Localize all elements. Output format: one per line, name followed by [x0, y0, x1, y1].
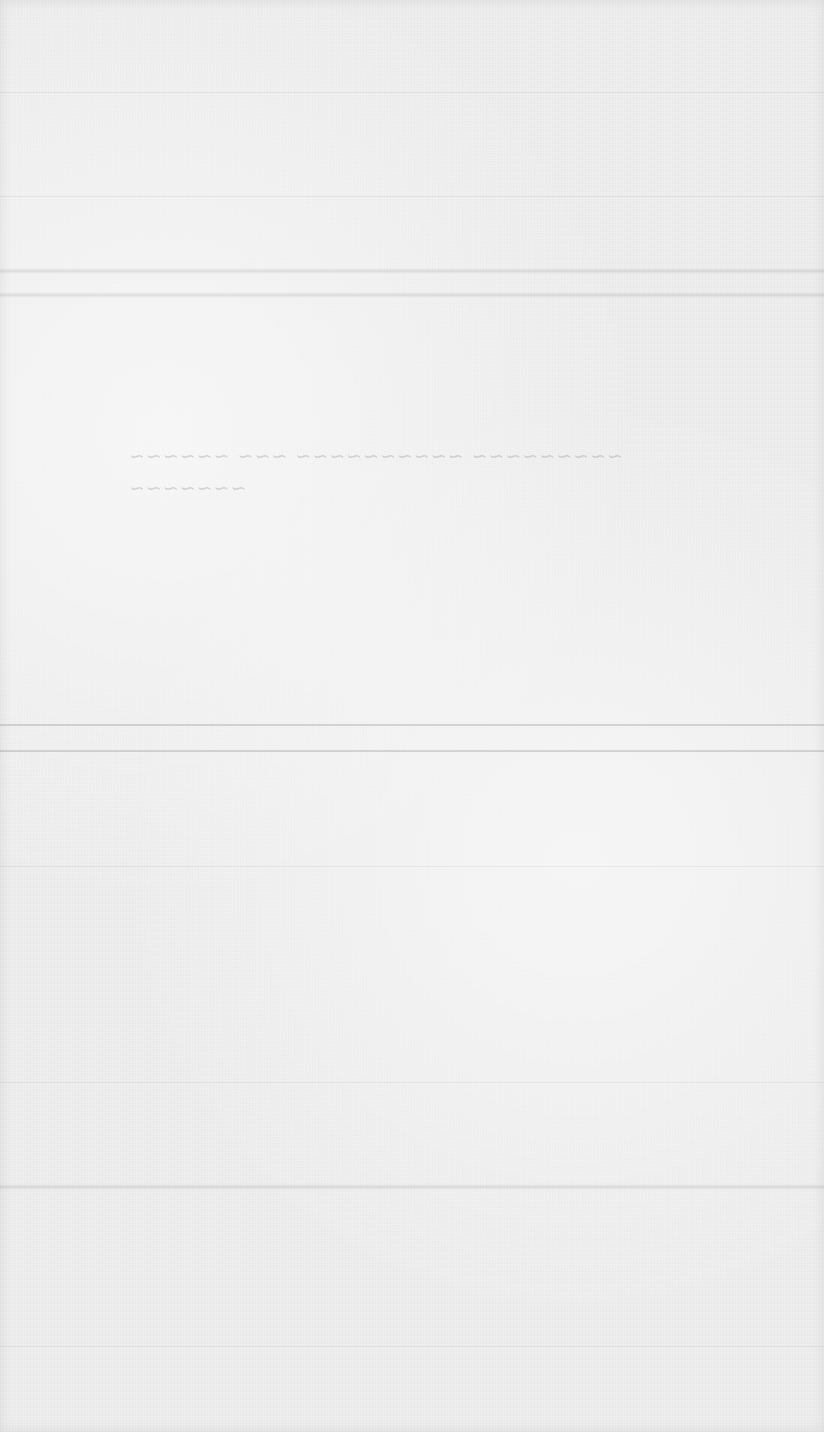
fold-line	[0, 92, 824, 93]
paper-page	[0, 0, 824, 1432]
fold-line	[0, 1082, 824, 1083]
bleed-through-text: ~~~~~~~	[128, 476, 246, 498]
fold-line	[0, 724, 824, 726]
fold-line	[0, 196, 824, 197]
fold-line	[0, 866, 824, 867]
fold-line	[0, 1184, 824, 1190]
fold-line	[0, 1346, 824, 1347]
bleed-through-text: ~~~~~~~~~ ~~~~~~~~~~ ~~~ ~~~~~~	[128, 444, 623, 466]
fold-line	[0, 750, 824, 752]
fold-line	[0, 268, 824, 274]
fold-line	[0, 292, 824, 298]
